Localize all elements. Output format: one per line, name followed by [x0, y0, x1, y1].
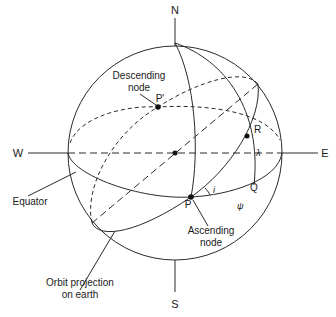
equator-label: Equator	[12, 196, 48, 207]
inclination-symbol: i	[213, 185, 216, 195]
point-p-label: P	[185, 199, 192, 210]
center-dot	[173, 151, 178, 156]
orbit-projection-label-2: on earth	[62, 289, 99, 300]
point-p-prime-label: P'	[156, 93, 165, 104]
ascending-pointer	[193, 200, 208, 226]
sphere-diagram: N S W E Descending node P' R λ Q i ψ P A…	[0, 0, 336, 317]
psi-symbol: ψ	[237, 201, 244, 211]
equator-pointer	[28, 172, 76, 196]
descending-node-label-1: Descending	[113, 70, 166, 81]
south-label: S	[171, 298, 178, 310]
east-label: E	[321, 147, 328, 159]
point-r-dot	[245, 134, 250, 139]
meridian-p	[175, 43, 195, 197]
ascending-node-label-2: node	[200, 237, 223, 248]
descending-pointer	[140, 94, 156, 105]
orbit-front	[92, 84, 258, 232]
descending-node-label-2: node	[128, 82, 151, 93]
west-label: W	[13, 147, 24, 159]
point-q-label: Q	[250, 182, 258, 193]
ascending-node-label-1: Ascending	[188, 225, 235, 236]
orbit-back	[91, 77, 258, 223]
orbit-projection-label-1: Orbit projection	[46, 277, 114, 288]
diagram-canvas: N S W E Descending node P' R λ Q i ψ P A…	[0, 0, 336, 317]
meridian-q	[175, 43, 255, 185]
lambda-symbol: λ	[255, 148, 260, 158]
inclination-arc	[205, 188, 210, 195]
point-r-label: R	[254, 124, 261, 135]
point-p-prime-dot	[155, 104, 161, 110]
north-label: N	[171, 4, 179, 16]
